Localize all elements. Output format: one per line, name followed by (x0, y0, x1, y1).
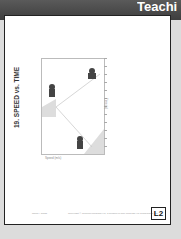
speed-line (56, 107, 92, 147)
chart-illustration (42, 59, 104, 154)
header-title: Teachi (137, 0, 181, 14)
speed-time-chart (41, 58, 105, 155)
x-axis-label: Time (s) (104, 98, 108, 109)
y-axis-label: Speed (m/s) (45, 156, 61, 160)
skier-figure-icon (77, 136, 83, 149)
page-title: 19. SPEED vs. TIME (13, 67, 20, 128)
skier-figure-icon (49, 84, 55, 97)
slope-shade (42, 99, 56, 117)
level-badge: L2 (151, 207, 166, 220)
transparency-page: 19. SPEED vs. TIME Time (s) Speed (m/s) … (4, 15, 171, 225)
skier-figure-icon (88, 68, 96, 79)
footer-copyright: Copyright © Glencoe/McGraw-Hill, a divis… (68, 212, 158, 215)
footer-left: Name / Class (32, 212, 47, 215)
